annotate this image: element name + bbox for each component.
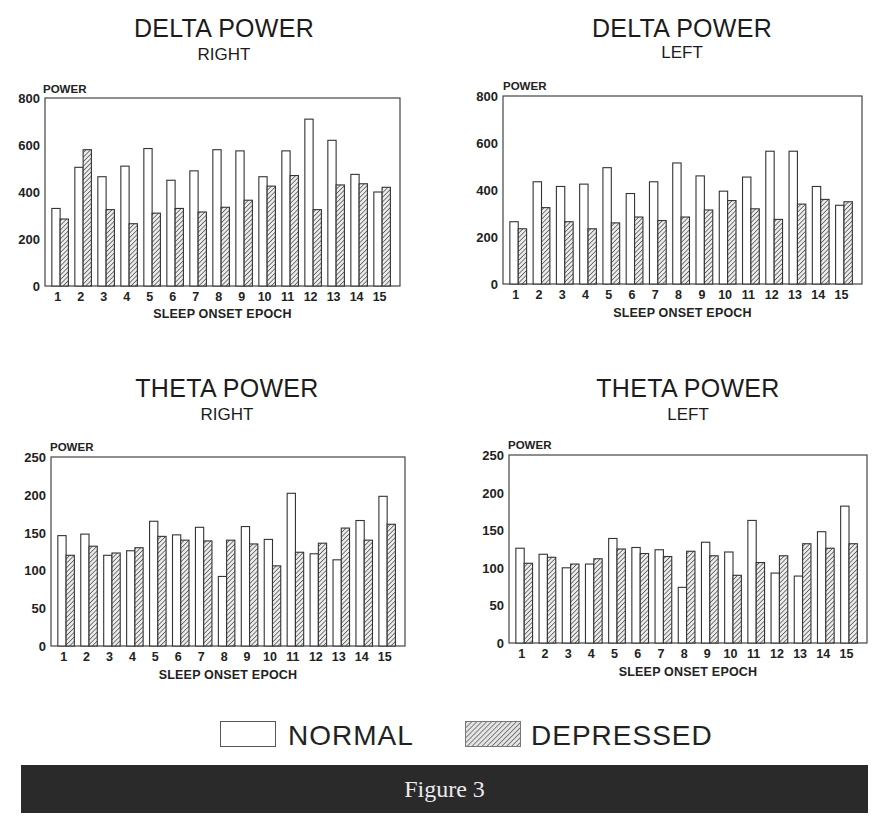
legend: NORMAL DEPRESSED xyxy=(0,718,881,758)
legend-swatch-normal xyxy=(220,721,276,747)
bar-depressed xyxy=(803,544,811,643)
bar-depressed xyxy=(687,551,695,643)
bar-depressed xyxy=(710,556,718,643)
bar-depressed xyxy=(756,563,764,643)
figure-caption-bar: Figure 3 xyxy=(21,765,868,813)
bar-normal xyxy=(794,576,802,643)
bar-depressed xyxy=(779,556,787,643)
bar-plot: 050100150200250123456789101112131415 xyxy=(0,0,881,833)
legend-label-depressed: DEPRESSED xyxy=(531,720,713,752)
bar-normal xyxy=(562,568,570,643)
figure-label: Figure 3 xyxy=(21,765,868,813)
y-tick-label: 0 xyxy=(497,636,504,651)
bar-normal xyxy=(725,552,733,643)
x-tick-label: 7 xyxy=(657,647,664,661)
bar-normal xyxy=(609,538,617,643)
x-tick-label: 6 xyxy=(634,647,641,661)
x-tick-label: 1 xyxy=(518,647,525,661)
bar-normal xyxy=(655,550,663,643)
x-tick-label: 12 xyxy=(770,647,784,661)
bar-normal xyxy=(817,532,825,643)
bar-normal xyxy=(632,547,640,643)
bar-normal xyxy=(539,554,547,643)
bar-normal xyxy=(516,548,524,643)
legend-swatch-depressed xyxy=(465,721,521,747)
x-tick-label: 11 xyxy=(747,647,760,661)
bar-normal xyxy=(701,542,709,643)
bar-normal xyxy=(678,587,686,643)
bar-depressed xyxy=(663,557,671,643)
bar-normal xyxy=(748,520,756,643)
bar-depressed xyxy=(547,557,555,643)
x-tick-label: 14 xyxy=(816,647,830,661)
x-tick-label: 8 xyxy=(681,647,688,661)
x-tick-label: 10 xyxy=(724,647,738,661)
bar-depressed xyxy=(617,549,625,643)
bar-normal xyxy=(771,573,779,643)
x-tick-label: 15 xyxy=(840,647,854,661)
x-tick-label: 5 xyxy=(611,647,618,661)
bar-normal xyxy=(585,564,593,643)
bar-depressed xyxy=(571,564,579,643)
x-axis-label: SLEEP ONSET EPOCH xyxy=(509,665,867,679)
x-tick-label: 13 xyxy=(793,647,807,661)
x-tick-label: 4 xyxy=(588,647,595,661)
y-tick-label: 50 xyxy=(490,598,504,613)
y-tick-label: 100 xyxy=(482,561,504,576)
legend-label-normal: NORMAL xyxy=(288,720,414,752)
x-tick-label: 2 xyxy=(541,647,548,661)
y-tick-label: 250 xyxy=(482,448,504,463)
bar-depressed xyxy=(849,544,857,643)
bar-depressed xyxy=(594,559,602,643)
bar-depressed xyxy=(640,554,648,643)
x-tick-label: 3 xyxy=(565,647,572,661)
x-tick-label: 9 xyxy=(704,647,711,661)
bar-depressed xyxy=(826,548,834,643)
bar-normal xyxy=(841,506,849,643)
bar-depressed xyxy=(524,563,532,643)
bar-depressed xyxy=(733,575,741,643)
y-tick-label: 150 xyxy=(482,523,504,538)
y-tick-label: 200 xyxy=(482,486,504,501)
